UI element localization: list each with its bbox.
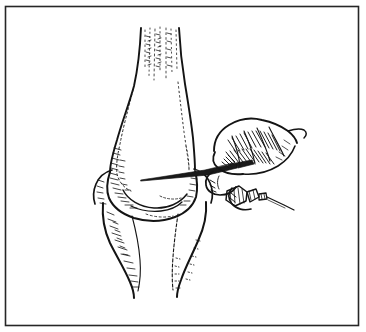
illustration-figure: Black and white pen-and-ink line drawing… <box>0 0 366 332</box>
illustration-canvas <box>0 0 366 332</box>
canvas-background <box>0 0 366 332</box>
